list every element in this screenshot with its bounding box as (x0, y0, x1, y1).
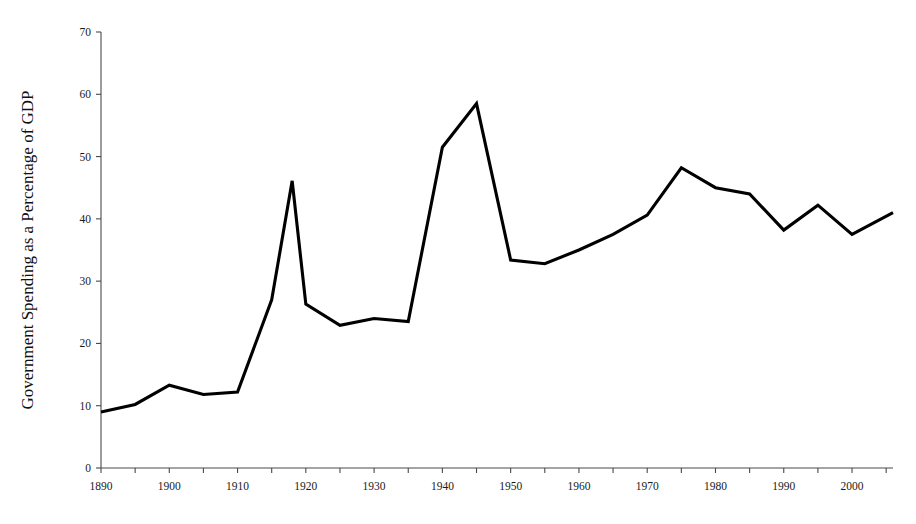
y-axis-title: Government Spending as a Percentage of G… (18, 90, 37, 409)
x-tick-label: 1990 (772, 480, 795, 492)
x-axis-ticks: 1890190019101920193019401950196019701980… (90, 468, 887, 492)
y-tick-label: 40 (80, 213, 92, 225)
x-tick-label: 1970 (636, 480, 659, 492)
line-chart: 010203040506070 189019001910192019301940… (0, 0, 916, 524)
y-tick-label: 10 (80, 400, 92, 412)
y-tick-label: 60 (80, 88, 92, 100)
y-tick-label: 0 (85, 462, 91, 474)
chart-container: 010203040506070 189019001910192019301940… (0, 0, 916, 524)
x-tick-label: 1960 (567, 480, 590, 492)
data-series (101, 104, 893, 412)
series-line-government-spending (101, 104, 893, 412)
y-tick-label: 20 (80, 337, 92, 349)
x-tick-label: 1890 (90, 480, 113, 492)
x-tick-label: 1920 (294, 480, 317, 492)
x-tick-label: 1910 (226, 480, 249, 492)
y-axis-ticks: 010203040506070 (80, 26, 102, 474)
x-tick-label: 1930 (363, 480, 386, 492)
x-tick-label: 1940 (431, 480, 454, 492)
y-tick-label: 30 (80, 275, 92, 287)
y-tick-label: 50 (80, 151, 92, 163)
axes (101, 32, 893, 468)
y-tick-label: 70 (80, 26, 92, 38)
x-tick-label: 1900 (158, 480, 181, 492)
x-tick-label: 2000 (841, 480, 864, 492)
x-tick-label: 1950 (499, 480, 522, 492)
x-tick-label: 1980 (704, 480, 727, 492)
